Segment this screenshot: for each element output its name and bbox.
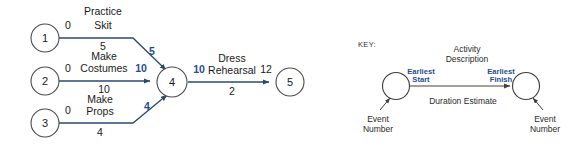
activity-4-name-line2: Rehearsal bbox=[208, 64, 256, 76]
key-activity-description-line1: Activity bbox=[454, 44, 482, 54]
key-duration-estimate: Duration Estimate bbox=[429, 96, 497, 106]
event-node-2[interactable]: 2 bbox=[31, 67, 59, 95]
activity-3-earliest-start: 0 bbox=[65, 104, 71, 116]
key-event-number-left-line1: Event bbox=[367, 114, 389, 124]
key-event-node-left bbox=[383, 73, 410, 100]
event-node-4[interactable]: 4 bbox=[157, 67, 187, 97]
key-title: KEY: bbox=[358, 40, 376, 49]
event-node-4-label: 4 bbox=[169, 76, 175, 88]
key-event-number-right-line1: Event bbox=[534, 114, 556, 124]
activity-1-earliest-start: 0 bbox=[65, 19, 71, 31]
activity-2-earliest-start: 0 bbox=[65, 62, 71, 74]
key-event-number-left-line2: Number bbox=[363, 124, 393, 134]
event-node-1-label: 1 bbox=[42, 32, 48, 44]
key-event-number-left-pointer-icon bbox=[380, 98, 390, 110]
key-earliest-finish-line2: Finish bbox=[490, 75, 513, 84]
pert-diagram-canvas: 1 2 3 4 5 0 Practice Skit 5 5 0 Make Cos… bbox=[0, 0, 575, 156]
key-event-number-right-line2: Number bbox=[530, 124, 560, 134]
activity-1-earliest-finish: 5 bbox=[149, 45, 155, 57]
event-node-1[interactable]: 1 bbox=[31, 24, 59, 52]
key-event-node-right bbox=[513, 73, 540, 100]
activity-4-earliest-finish: 12 bbox=[260, 63, 272, 75]
event-node-3-label: 3 bbox=[42, 117, 48, 129]
activity-3-earliest-finish: 4 bbox=[144, 100, 150, 112]
event-node-2-label: 2 bbox=[42, 75, 48, 87]
event-node-5-label: 5 bbox=[287, 76, 293, 88]
event-node-3[interactable]: 3 bbox=[31, 109, 59, 137]
key-event-number-right-pointer-icon bbox=[533, 98, 543, 110]
activity-2-name-line1: Make bbox=[91, 50, 117, 62]
activity-3-name-line2: Props bbox=[86, 105, 113, 117]
activity-4-duration: 2 bbox=[229, 85, 235, 97]
activity-4-name-line1: Dress bbox=[218, 52, 245, 64]
activity-2-name-line2: Costumes bbox=[80, 62, 127, 74]
activity-1-name-line1: Practice bbox=[84, 5, 122, 17]
activity-1-name-line2: Skit bbox=[94, 19, 112, 31]
activity-4-earliest-start: 10 bbox=[193, 63, 205, 75]
event-node-5[interactable]: 5 bbox=[276, 68, 304, 96]
key-earliest-start-line2: Start bbox=[412, 75, 430, 84]
activity-3-duration: 4 bbox=[97, 126, 103, 138]
key-activity-description-line2: Description bbox=[446, 54, 489, 64]
activity-3-name-line1: Make bbox=[87, 93, 113, 105]
activity-2-earliest-finish: 10 bbox=[135, 62, 147, 74]
network-diagram-svg: 1 2 3 4 5 0 Practice Skit 5 5 0 Make Cos… bbox=[0, 0, 575, 156]
